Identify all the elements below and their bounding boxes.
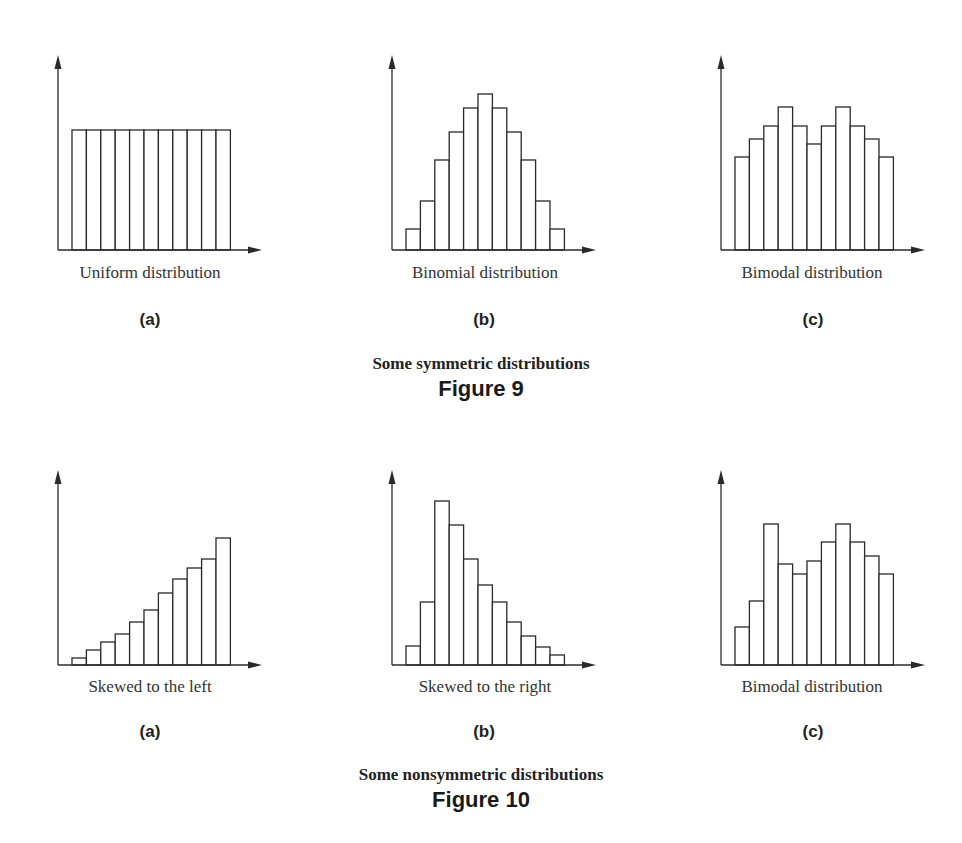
- histogram-bar: [507, 622, 521, 665]
- histogram-bar: [158, 130, 172, 250]
- histogram-bar: [850, 126, 864, 250]
- histogram-bar: [536, 201, 550, 250]
- histogram-bar: [793, 574, 807, 665]
- y-axis-arrow-icon: [389, 55, 396, 69]
- histogram-bar: [836, 107, 850, 250]
- histogram-bar: [420, 602, 434, 665]
- figure9-caption-c: Bimodal distribution: [692, 263, 932, 283]
- bimodal-histogram-asymmetric: [703, 460, 943, 690]
- histogram-bar: [778, 564, 792, 665]
- histogram-bar: [735, 627, 749, 665]
- figure9-label-a: (a): [30, 310, 270, 330]
- histogram-bar: [187, 568, 201, 665]
- figure10-caption-a: Skewed to the left: [30, 677, 270, 697]
- histogram-bar: [735, 157, 749, 250]
- histogram-bar: [749, 601, 763, 665]
- histogram-bar: [406, 646, 420, 665]
- binomial-histogram: [374, 45, 614, 275]
- figure9-label-b: (b): [364, 310, 604, 330]
- histogram-bar: [72, 130, 86, 250]
- histogram-bar: [521, 636, 535, 665]
- histogram-bar: [144, 130, 158, 250]
- histogram-bar: [101, 130, 115, 250]
- figure10-caption-c: Bimodal distribution: [692, 677, 932, 697]
- histogram-bar: [216, 130, 230, 250]
- histogram-bar: [807, 561, 821, 665]
- histogram-bar: [144, 610, 158, 665]
- histogram-bar: [202, 130, 216, 250]
- histogram-bar: [173, 130, 187, 250]
- histogram-bar: [115, 130, 129, 250]
- histogram-bar: [836, 524, 850, 665]
- figure9-panel-b: [374, 45, 614, 275]
- histogram-bar: [879, 157, 893, 250]
- histogram-bar: [130, 130, 144, 250]
- skewed-right-histogram: [374, 460, 614, 690]
- histogram-bar: [764, 524, 778, 665]
- figure10-panel-c: [703, 460, 943, 690]
- histogram-bar: [821, 126, 835, 250]
- histogram-bar: [86, 650, 100, 665]
- figure9-caption-b: Binomial distribution: [365, 263, 605, 283]
- figure10-label-c: (c): [693, 722, 933, 742]
- histogram-bar: [115, 634, 129, 665]
- histogram-bar: [478, 94, 492, 250]
- histogram-bar: [865, 139, 879, 250]
- histogram-bar: [158, 593, 172, 665]
- histogram-bar: [879, 574, 893, 665]
- y-axis-arrow-icon: [718, 470, 725, 484]
- histogram-bar: [492, 602, 506, 665]
- histogram-bar: [101, 642, 115, 665]
- histogram-bar: [793, 126, 807, 250]
- histogram-bar: [435, 501, 449, 665]
- histogram-bar: [749, 139, 763, 250]
- histogram-bar: [449, 525, 463, 665]
- histogram-bar: [435, 160, 449, 250]
- histogram-bar: [865, 556, 879, 665]
- bimodal-histogram-symmetric: [703, 45, 943, 275]
- histogram-bar: [464, 108, 478, 250]
- histogram-bar: [778, 107, 792, 250]
- figure10-panel-a: [40, 460, 280, 690]
- x-axis-arrow-icon: [248, 247, 262, 254]
- x-axis-arrow-icon: [582, 247, 596, 254]
- uniform-histogram: [40, 45, 280, 275]
- histogram-bar: [420, 201, 434, 250]
- figure10-label-b: (b): [364, 722, 604, 742]
- figure9-number: Figure 9: [0, 376, 962, 402]
- histogram-bar: [550, 229, 564, 250]
- figure10-label-a: (a): [30, 722, 270, 742]
- histogram-bar: [807, 144, 821, 250]
- histogram-bar: [478, 585, 492, 665]
- histogram-bar: [821, 542, 835, 665]
- x-axis-arrow-icon: [911, 662, 925, 669]
- y-axis-arrow-icon: [55, 55, 62, 69]
- figure9-panel-c: [703, 45, 943, 275]
- figure9-label-c: (c): [693, 310, 933, 330]
- figure9-caption-a: Uniform distribution: [30, 263, 270, 283]
- histogram-bar: [202, 559, 216, 665]
- x-axis-arrow-icon: [248, 662, 262, 669]
- histogram-bar: [130, 622, 144, 665]
- figure10-panel-b: [374, 460, 614, 690]
- histogram-bar: [521, 160, 535, 250]
- histogram-bar: [492, 108, 506, 250]
- histogram-bar: [187, 130, 201, 250]
- histogram-bar: [464, 559, 478, 665]
- figure10-caption-b: Skewed to the right: [365, 677, 605, 697]
- histogram-bar: [764, 126, 778, 250]
- figure10-number: Figure 10: [0, 787, 962, 813]
- y-axis-arrow-icon: [718, 55, 725, 69]
- histogram-bar: [449, 132, 463, 250]
- figure9-title: Some symmetric distributions: [0, 354, 962, 374]
- y-axis-arrow-icon: [55, 470, 62, 484]
- histogram-bar: [536, 647, 550, 665]
- y-axis-arrow-icon: [389, 470, 396, 484]
- histogram-bar: [550, 655, 564, 665]
- histogram-bar: [406, 229, 420, 250]
- histogram-bar: [850, 542, 864, 665]
- histogram-bar: [86, 130, 100, 250]
- figure10-title: Some nonsymmetric distributions: [0, 765, 962, 785]
- histogram-bar: [72, 658, 86, 665]
- histogram-bar: [216, 538, 230, 665]
